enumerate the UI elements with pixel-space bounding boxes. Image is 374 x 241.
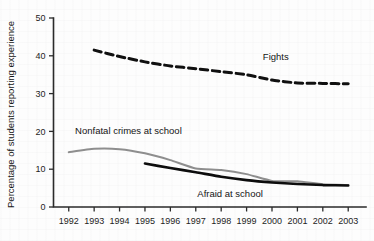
y-tick-label: 50 [35, 13, 45, 23]
x-tick-label: 1998 [211, 216, 231, 226]
axes [54, 18, 367, 207]
x-tick-label: 2003 [338, 216, 358, 226]
x-tick-label: 1995 [135, 216, 155, 226]
x-tick-label: 1999 [237, 216, 257, 226]
y-axis-title-text: Percentage of students reporting experie… [5, 21, 16, 208]
y-tick-label: 40 [35, 51, 45, 61]
x-tick-label: 2000 [262, 216, 282, 226]
x-tick-label: 2002 [313, 216, 333, 226]
x-tick-label: 1992 [59, 216, 79, 226]
series-label: Fights [263, 51, 289, 62]
y-axis-title: Percentage of students reporting experie… [5, 21, 16, 208]
y-axis-ticks: 01020304050 [35, 13, 53, 212]
y-tick-label: 30 [35, 89, 45, 99]
x-tick-label: 1997 [186, 216, 206, 226]
series-line [69, 149, 348, 185]
x-tick-label: 1993 [84, 216, 104, 226]
series-label: Afraid at school [197, 188, 262, 199]
y-tick-label: 10 [35, 164, 45, 174]
line-chart: Percentage of students reporting experie… [0, 0, 374, 241]
x-tick-label: 1996 [160, 216, 180, 226]
series-line [94, 50, 348, 84]
y-tick-label: 0 [40, 202, 45, 212]
series-label: Nonfatal crimes at school [75, 125, 182, 136]
series-lines [69, 50, 348, 185]
x-tick-label: 1994 [110, 216, 130, 226]
chart-figure: Percentage of students reporting experie… [0, 0, 374, 241]
x-axis-ticks: 1992199319941995199619971998199920002001… [59, 207, 359, 226]
x-tick-label: 2001 [287, 216, 307, 226]
y-tick-label: 20 [35, 127, 45, 137]
